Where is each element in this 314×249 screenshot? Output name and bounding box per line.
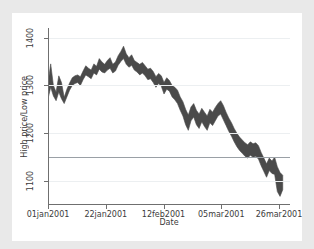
y-tick-label: 1200	[26, 123, 35, 143]
x-tick	[221, 205, 222, 209]
x-axis-title: Date	[48, 218, 290, 227]
y-tick	[44, 133, 48, 134]
gridline-y	[49, 38, 290, 39]
gridline-y	[49, 181, 290, 182]
gridline-y	[49, 85, 290, 86]
x-axis-title-label: Date	[159, 218, 178, 227]
y-tick-label: 1400	[26, 27, 35, 47]
x-axis-line	[48, 204, 290, 205]
gridline-y	[49, 133, 290, 134]
reference-line	[49, 157, 290, 158]
chart-screenshot: High price/Low price 1100120013001400 01…	[0, 0, 314, 249]
y-tick-label: 1300	[26, 75, 35, 95]
y-axis-line	[48, 28, 49, 205]
y-tick-label: 1100	[26, 171, 35, 191]
y-tick	[44, 181, 48, 182]
x-tick	[164, 205, 165, 209]
y-tick	[44, 38, 48, 39]
chart-panel: High price/Low price 1100120013001400 01…	[12, 13, 302, 241]
x-tick	[279, 205, 280, 209]
price-range-band	[48, 28, 290, 205]
x-tick	[48, 205, 49, 209]
plot-area	[48, 28, 290, 205]
y-tick	[44, 85, 48, 86]
x-tick	[106, 205, 107, 209]
